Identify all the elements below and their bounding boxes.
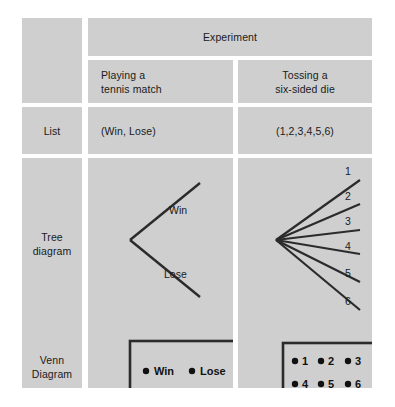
tennis-branch-lose-line — [130, 240, 200, 297]
die-branch-label-4: 4 — [345, 240, 351, 252]
tennis-venn-dot-lose — [189, 368, 195, 374]
die-venn-label-6: 6 — [355, 378, 361, 388]
tennis-branch-label-lose: Lose — [164, 268, 187, 280]
column-header-playing-tennis: Playing a tennis match — [88, 60, 233, 103]
diagram-cell-tennis: Win Lose Win Lose — [88, 158, 233, 388]
row-label-tree-venn-cell: Tree diagram Venn Diagram — [22, 158, 82, 388]
tennis-venn-label-lose: Lose — [200, 365, 226, 377]
die-branch-3-line — [276, 230, 360, 240]
die-branch-label-1: 1 — [345, 165, 351, 177]
column-header-tennis-line1: Playing a — [101, 68, 162, 82]
row-label-venn-diagram: Venn Diagram — [22, 353, 82, 381]
die-venn-dot-5 — [318, 381, 324, 387]
die-branch-1-line — [276, 180, 360, 240]
die-venn-dot-3 — [345, 358, 351, 364]
row-label-venn-line1: Venn — [22, 353, 82, 367]
die-branch-4-line — [276, 240, 360, 254]
die-tree-branches — [276, 180, 360, 310]
list-value-die: (1,2,3,4,5,6) — [276, 124, 334, 138]
die-venn-box — [283, 343, 372, 388]
experiment-outcomes-table: List Tree diagram Venn Diagram Experimen… — [22, 18, 372, 388]
tennis-tree-branches — [130, 183, 200, 297]
list-cell-die: (1,2,3,4,5,6) — [238, 107, 372, 154]
tennis-branch-win-line — [130, 183, 200, 240]
row-label-list: List — [22, 107, 82, 154]
die-venn-dot-6 — [345, 381, 351, 387]
die-branch-label-6: 6 — [345, 295, 351, 307]
die-branch-6-line — [276, 240, 360, 310]
row-label-tree-line1: Tree — [33, 230, 72, 244]
die-venn-label-2: 2 — [328, 355, 334, 367]
die-venn-label-3: 3 — [355, 355, 361, 367]
tennis-branch-label-win: Win — [169, 204, 187, 216]
die-venn-dot-2 — [318, 358, 324, 364]
die-branch-2-line — [276, 204, 360, 240]
tennis-diagram-svg: Win Lose Win Lose — [88, 158, 233, 388]
diagram-cell-die: 1 2 3 4 5 6 1 2 3 4 5 6 — [238, 158, 372, 388]
row-label-venn-line2: Diagram — [22, 367, 82, 381]
die-branch-label-3: 3 — [345, 215, 351, 227]
list-cell-tennis: (Win, Lose) — [88, 107, 233, 154]
row-label-tree-line2: diagram — [33, 244, 72, 258]
tennis-venn-label-win: Win — [154, 365, 174, 377]
die-venn-label-5: 5 — [328, 378, 334, 388]
die-venn-dot-1 — [292, 358, 298, 364]
die-branch-label-2: 2 — [345, 190, 351, 202]
row-label-list-cell: List — [22, 107, 82, 154]
column-header-die-line2: six-sided die — [275, 82, 335, 96]
die-branch-label-5: 5 — [345, 267, 351, 279]
tennis-venn-box — [130, 341, 233, 388]
column-header-tennis-line2: tennis match — [101, 82, 162, 96]
tennis-venn-dot-win — [143, 368, 149, 374]
list-value-tennis: (Win, Lose) — [101, 124, 156, 138]
die-venn-label-1: 1 — [302, 355, 308, 367]
column-header-tossing-die: Tossing a six-sided die — [238, 60, 372, 103]
column-header-die-line1: Tossing a — [275, 68, 335, 82]
die-venn-label-4: 4 — [302, 378, 309, 388]
experiment-header-label: Experiment — [203, 30, 257, 44]
row-label-corner-cell — [22, 18, 82, 103]
die-diagram-svg: 1 2 3 4 5 6 1 2 3 4 5 6 — [238, 158, 372, 388]
die-venn-dot-4 — [292, 381, 298, 387]
experiment-header-cell: Experiment — [88, 18, 372, 56]
die-branch-5-line — [276, 240, 360, 282]
